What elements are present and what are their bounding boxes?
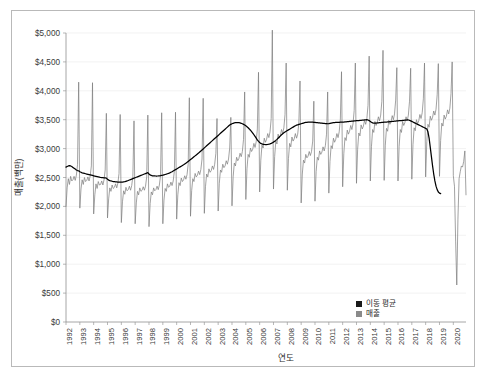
svg-text:2008: 2008 bbox=[287, 328, 296, 345]
svg-text:2011: 2011 bbox=[328, 328, 337, 344]
svg-text:2020: 2020 bbox=[453, 328, 462, 345]
svg-text:2015: 2015 bbox=[384, 328, 393, 345]
svg-text:1995: 1995 bbox=[107, 328, 116, 345]
svg-text:2001: 2001 bbox=[190, 328, 199, 345]
y-gridlines bbox=[66, 33, 466, 293]
svg-text:$5,000: $5,000 bbox=[35, 29, 60, 38]
svg-text:2014: 2014 bbox=[370, 328, 379, 345]
svg-text:$3,000: $3,000 bbox=[35, 145, 60, 154]
svg-text:2009: 2009 bbox=[301, 328, 310, 345]
svg-text:1993: 1993 bbox=[79, 328, 88, 345]
svg-text:2005: 2005 bbox=[245, 328, 254, 345]
sales-chart-svg: $0$500$1,000$1,500$2,000$2,500$3,000$3,5… bbox=[0, 0, 492, 386]
svg-text:2010: 2010 bbox=[314, 328, 323, 345]
svg-text:2019: 2019 bbox=[439, 328, 448, 345]
svg-text:1992: 1992 bbox=[65, 328, 74, 345]
svg-text:1999: 1999 bbox=[162, 328, 171, 345]
svg-text:$4,500: $4,500 bbox=[35, 58, 60, 67]
chart-screenshot: $0$500$1,000$1,500$2,000$2,500$3,000$3,5… bbox=[0, 0, 492, 386]
svg-text:1997: 1997 bbox=[135, 328, 144, 345]
svg-text:$0: $0 bbox=[51, 318, 61, 327]
svg-text:2004: 2004 bbox=[231, 328, 240, 345]
series-line-sales bbox=[66, 30, 466, 285]
svg-text:2012: 2012 bbox=[342, 328, 351, 345]
svg-text:2013: 2013 bbox=[356, 328, 365, 345]
x-axis-title: 연도 bbox=[278, 353, 294, 363]
y-axis-tick-labels: $0$500$1,000$1,500$2,000$2,500$3,000$3,5… bbox=[35, 29, 60, 327]
svg-text:2016: 2016 bbox=[397, 328, 406, 345]
x-axis-ticks bbox=[66, 322, 453, 325]
svg-text:1996: 1996 bbox=[121, 328, 130, 345]
svg-text:2000: 2000 bbox=[176, 328, 185, 345]
series-line-moving-average bbox=[66, 120, 441, 194]
chart-legend: 이동 평균매출 bbox=[356, 298, 396, 318]
chart-plot-area: $0$500$1,000$1,500$2,000$2,500$3,000$3,5… bbox=[0, 0, 492, 386]
svg-text:1998: 1998 bbox=[148, 328, 157, 345]
svg-text:2002: 2002 bbox=[204, 328, 213, 345]
svg-text:2003: 2003 bbox=[218, 328, 227, 345]
svg-text:매출: 매출 bbox=[366, 308, 380, 318]
y-axis-ticks bbox=[63, 33, 66, 322]
svg-text:연도: 연도 bbox=[278, 353, 294, 363]
svg-text:$4,000: $4,000 bbox=[35, 87, 60, 96]
svg-text:$3,500: $3,500 bbox=[35, 116, 60, 125]
svg-text:$1,500: $1,500 bbox=[35, 231, 60, 240]
svg-text:2007: 2007 bbox=[273, 328, 282, 345]
svg-text:2006: 2006 bbox=[259, 328, 268, 345]
svg-text:1994: 1994 bbox=[93, 328, 102, 345]
svg-text:매출(백만): 매출(백만) bbox=[14, 159, 24, 197]
x-axis-tick-labels: 1992199319941995199619971998199920002001… bbox=[65, 328, 461, 345]
y-axis-title: 매출(백만) bbox=[14, 159, 24, 197]
svg-text:이동 평균: 이동 평균 bbox=[366, 298, 396, 308]
svg-text:2017: 2017 bbox=[411, 328, 420, 345]
svg-text:$2,500: $2,500 bbox=[35, 174, 60, 183]
svg-text:2018: 2018 bbox=[425, 328, 434, 345]
svg-text:$1,000: $1,000 bbox=[35, 260, 60, 269]
svg-text:$2,000: $2,000 bbox=[35, 202, 60, 211]
svg-text:$500: $500 bbox=[42, 289, 61, 298]
